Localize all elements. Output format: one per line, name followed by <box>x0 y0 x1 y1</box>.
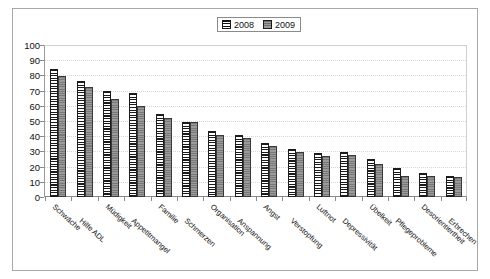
x-axis-labels: SchwächeHilfe ADLMüdigkeitAppetitmangelF… <box>45 201 467 273</box>
bar-2008[interactable] <box>393 168 401 197</box>
x-axis-label: Angst <box>262 203 282 222</box>
bar-2008[interactable] <box>235 135 243 197</box>
bar-2008[interactable] <box>446 176 454 197</box>
x-axis-label-cell: Desorientiertheit <box>414 201 440 273</box>
bar-2009[interactable] <box>348 155 356 197</box>
bar-group <box>230 45 256 197</box>
legend-swatch-icon <box>263 20 272 29</box>
y-axis-ticks <box>0 45 44 198</box>
bar-2009[interactable] <box>296 152 304 197</box>
x-axis-label-cell: Appetitmangel <box>124 201 150 273</box>
bar-2009[interactable] <box>216 135 224 197</box>
bar-2009[interactable] <box>322 156 330 197</box>
bar-2008[interactable] <box>50 69 58 197</box>
x-axis-label-cell: Luftnot <box>309 201 335 273</box>
bar-2008[interactable] <box>261 143 269 197</box>
x-axis-label-cell: Anspannung <box>230 201 256 273</box>
bar-2008[interactable] <box>367 159 375 197</box>
x-axis-label-cell: Depressivität <box>335 201 361 273</box>
legend-swatch-icon <box>222 20 231 29</box>
x-axis-label-cell: Organisation <box>203 201 229 273</box>
bar-2008[interactable] <box>129 93 137 197</box>
bar-group <box>71 45 97 197</box>
legend-label: 2009 <box>275 20 295 30</box>
bar-2009[interactable] <box>243 138 251 197</box>
bar-group <box>414 45 440 197</box>
legend-entry-2009[interactable]: 2009 <box>263 20 295 30</box>
bar-group <box>45 45 71 197</box>
x-axis-label-cell: Verstopfung <box>282 201 308 273</box>
bar-2008[interactable] <box>156 114 164 197</box>
x-axis-label-cell: Erbrechen <box>441 201 467 273</box>
x-axis-label-cell: Familie <box>151 201 177 273</box>
bar-group <box>362 45 388 197</box>
bars-layer <box>45 45 467 197</box>
bar-group <box>151 45 177 197</box>
bar-2009[interactable] <box>111 99 119 197</box>
bar-2009[interactable] <box>427 176 435 197</box>
bar-2009[interactable] <box>454 177 462 197</box>
bar-chart: 20082009 1009080706050403020100 Schwäche… <box>0 0 490 279</box>
bar-2008[interactable] <box>314 153 322 197</box>
bar-2008[interactable] <box>419 173 427 197</box>
bar-group <box>309 45 335 197</box>
chart-legend: 20082009 <box>217 17 301 32</box>
bar-group <box>335 45 361 197</box>
legend-entry-2008[interactable]: 2008 <box>222 20 254 30</box>
x-axis-label-cell: Schwäche <box>45 201 71 273</box>
bar-group <box>177 45 203 197</box>
bar-group <box>98 45 124 197</box>
x-axis-label-cell: Schmerzen <box>177 201 203 273</box>
y-axis-tick-mark <box>40 197 44 198</box>
x-axis-label-cell: Hilfe ADL <box>71 201 97 273</box>
bar-2008[interactable] <box>288 149 296 197</box>
bar-2009[interactable] <box>375 164 383 197</box>
bar-2008[interactable] <box>340 152 348 197</box>
bar-2009[interactable] <box>190 122 198 198</box>
x-axis-label: Luftnot <box>315 203 338 224</box>
bar-group <box>256 45 282 197</box>
legend-label: 2008 <box>234 20 254 30</box>
bar-group <box>124 45 150 197</box>
x-axis-label: Erbrechen <box>446 217 477 246</box>
bar-2009[interactable] <box>164 118 172 197</box>
bar-2009[interactable] <box>85 87 93 197</box>
bar-group <box>282 45 308 197</box>
bar-2008[interactable] <box>182 122 190 198</box>
bar-group <box>388 45 414 197</box>
bar-2008[interactable] <box>208 131 216 197</box>
bar-group <box>441 45 467 197</box>
x-axis-label-cell: Müdigkeit <box>98 201 124 273</box>
bar-2008[interactable] <box>77 81 85 197</box>
bar-2009[interactable] <box>137 106 145 197</box>
x-axis-label-cell: Übelkeit <box>362 201 388 273</box>
bar-2009[interactable] <box>58 76 66 197</box>
bar-2009[interactable] <box>401 176 409 197</box>
bar-2009[interactable] <box>269 146 277 197</box>
x-axis-label-cell: Angst <box>256 201 282 273</box>
bar-group <box>203 45 229 197</box>
x-axis-label-cell: Pflegeprobleme <box>388 201 414 273</box>
bar-2008[interactable] <box>103 91 111 197</box>
